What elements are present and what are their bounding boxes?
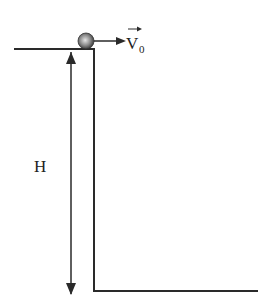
velocity-symbol: V (126, 34, 139, 53)
velocity-label: V 0 (126, 27, 145, 56)
velocity-arrow (94, 37, 126, 45)
projectile-diagram: H V 0 (0, 0, 270, 307)
velocity-subscript: 0 (139, 43, 145, 55)
height-label: H (34, 157, 46, 176)
height-arrow (66, 52, 76, 295)
ball (78, 33, 94, 49)
